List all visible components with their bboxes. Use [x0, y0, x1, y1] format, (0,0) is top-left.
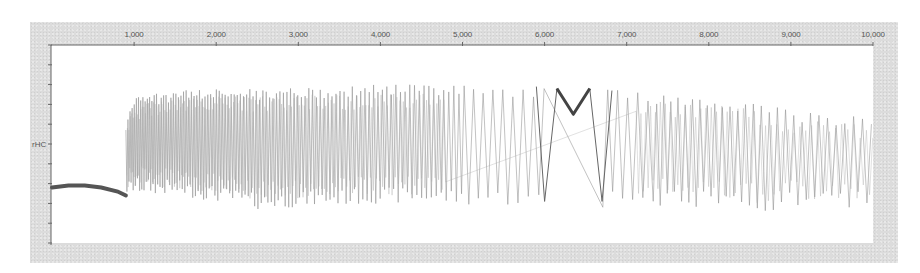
waveform-chart	[0, 0, 920, 273]
baseline-trace	[52, 186, 126, 196]
v-notch-trace	[557, 89, 590, 115]
